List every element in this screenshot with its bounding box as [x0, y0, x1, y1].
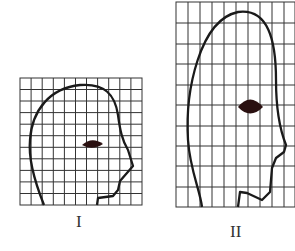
figure-label-1: I [76, 212, 82, 232]
head-outline-figure-2 [188, 12, 286, 207]
head-outline-figure-1 [30, 85, 133, 205]
grid-transformation-diagram [0, 0, 295, 251]
figure-label-2: II [230, 222, 241, 242]
eye-icon [82, 140, 103, 148]
eye-icon [238, 100, 263, 114]
